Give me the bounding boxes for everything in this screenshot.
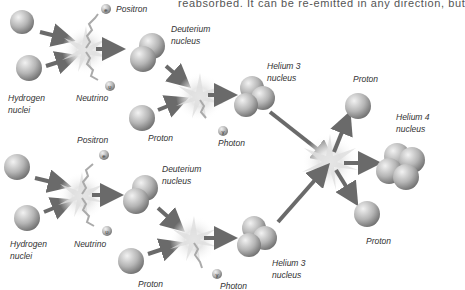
label-hydrogen-nuclei: Hydrogen nuclei <box>10 238 47 262</box>
deuterium-nucleus-bottom <box>123 175 158 214</box>
proton-bottom-output <box>354 201 380 227</box>
arrow <box>166 66 182 80</box>
proton-top-output <box>345 93 371 119</box>
label-helium3-nucleus: Helium 3 nucleus <box>267 60 301 84</box>
neutrino-icon: υ <box>105 81 115 91</box>
arrow <box>278 172 322 222</box>
deuterium-nucleus-top <box>130 33 165 72</box>
arrow <box>40 32 64 38</box>
svg-text:γ: γ <box>216 272 219 278</box>
svg-text:υ: υ <box>105 229 108 235</box>
label-proton: Proton <box>366 235 391 247</box>
label-deuterium-nucleus: Deuterium nucleus <box>162 163 201 187</box>
arrow <box>158 208 176 224</box>
label-neutrino: Neutrino <box>76 92 108 104</box>
label-photon: Photon <box>220 280 247 290</box>
neutrino-icon: υ <box>102 226 112 236</box>
label-hydrogen-nuclei: Hydrogen nuclei <box>8 92 45 116</box>
label-helium3-nucleus: Helium 3 nucleus <box>272 257 306 281</box>
svg-text:γ: γ <box>222 129 225 135</box>
label-positron: Positron <box>116 3 147 15</box>
arrow <box>158 102 178 110</box>
proton-bottom-1 <box>118 248 144 274</box>
label-photon: Photon <box>218 137 245 149</box>
photon-icon: γ <box>218 126 228 136</box>
arrow <box>35 178 60 184</box>
photon-icon: γ <box>212 269 222 279</box>
label-proton: Proton <box>138 278 163 290</box>
helium3-nucleus-bottom <box>237 216 277 257</box>
hydrogen-nucleus-bottom-1 <box>4 154 30 180</box>
helium4-nucleus <box>376 143 425 190</box>
hydrogen-nucleus-bottom-2 <box>14 205 40 231</box>
arrow <box>148 246 172 254</box>
label-positron: Positron <box>77 134 108 146</box>
label-deuterium-nucleus: Deuterium nucleus <box>171 23 210 47</box>
body-text-fragment: reabsorbed. It can be re-emitted in any … <box>178 0 465 9</box>
proton-top-1 <box>129 105 155 131</box>
positron-icon: e <box>99 150 109 160</box>
label-helium4-nucleus: Helium 4 nucleus <box>396 111 430 135</box>
svg-text:υ: υ <box>108 84 111 90</box>
hydrogen-nucleus-top-2 <box>16 55 42 81</box>
hydrogen-nucleus-top-1 <box>10 10 34 34</box>
label-proton: Proton <box>353 73 378 85</box>
label-proton: Proton <box>148 132 173 144</box>
label-neutrino: Neutrino <box>74 238 106 250</box>
positron-icon: e <box>101 4 111 14</box>
